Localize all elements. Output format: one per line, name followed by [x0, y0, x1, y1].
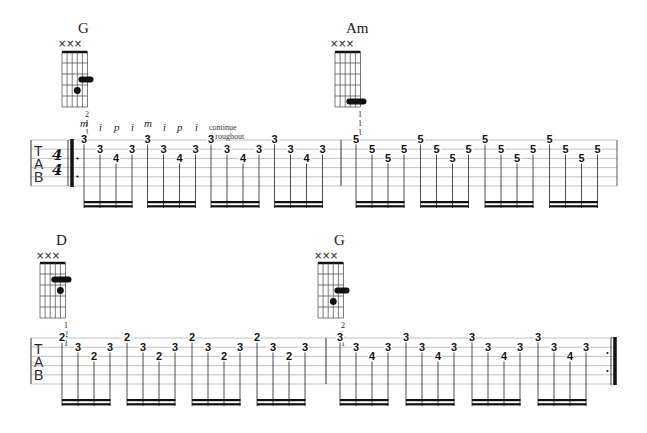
beam-secondary — [257, 403, 306, 405]
fret-number: 4 — [239, 153, 247, 164]
fret-number: 3 — [301, 342, 309, 353]
fret-number: 5 — [481, 134, 489, 145]
fret-number: 5 — [497, 144, 505, 155]
beam-secondary — [62, 403, 111, 405]
fret-number: 4 — [368, 351, 376, 362]
fret-number: 4 — [566, 351, 574, 362]
repeat-dot — [76, 175, 78, 177]
beam-primary — [84, 201, 133, 203]
beam-primary — [356, 201, 405, 203]
fret-number: 5 — [448, 153, 456, 164]
fret-number: 4 — [175, 153, 183, 164]
fret-number: 2 — [155, 351, 163, 362]
finger-dot — [57, 287, 64, 294]
fret-number: 3 — [207, 134, 215, 145]
fret-number: 3 — [402, 332, 410, 343]
fret-number: 4 — [500, 351, 508, 362]
fret-number: 5 — [400, 144, 408, 155]
fret-number: 3 — [191, 144, 199, 155]
beam-secondary — [550, 205, 599, 207]
beam-primary — [421, 201, 470, 203]
fret-number: 3 — [204, 342, 212, 353]
fret-number: 3 — [418, 342, 426, 353]
fret-number: 5 — [561, 144, 569, 155]
fret-number: 3 — [270, 134, 278, 145]
fret-number: 2 — [58, 332, 66, 343]
fret-number: 3 — [484, 342, 492, 353]
fret-number: 3 — [450, 342, 458, 353]
finger-dot — [330, 298, 337, 305]
beam-secondary — [472, 403, 521, 405]
beam-primary — [192, 399, 241, 401]
beam-secondary — [340, 403, 389, 405]
beam-secondary — [275, 205, 324, 207]
beam-secondary — [127, 403, 176, 405]
fret-number: 2 — [285, 351, 293, 362]
beam-primary — [257, 399, 306, 401]
beam-primary — [211, 201, 260, 203]
fret-number: 5 — [432, 144, 440, 155]
fret-number: 3 — [171, 342, 179, 353]
fret-number: 3 — [269, 342, 277, 353]
beam-primary — [127, 399, 176, 401]
fret-number: 5 — [352, 134, 360, 145]
fret-number: 5 — [384, 153, 392, 164]
fret-number: 3 — [286, 144, 294, 155]
beam-secondary — [192, 403, 241, 405]
beam-primary — [538, 399, 587, 401]
beam-primary — [485, 201, 534, 203]
fret-number: 3 — [96, 144, 104, 155]
fret-number: 5 — [513, 153, 521, 164]
beam-primary — [275, 201, 324, 203]
fret-number: 3 — [255, 144, 263, 155]
beam-secondary — [406, 403, 455, 405]
fret-number: 5 — [416, 134, 424, 145]
fret-number: 5 — [545, 134, 553, 145]
fret-number: 3 — [74, 342, 82, 353]
fret-number: 3 — [582, 342, 590, 353]
fret-number: 2 — [123, 332, 131, 343]
beam-secondary — [485, 205, 534, 207]
fret-number: 5 — [368, 144, 376, 155]
fret-number: 3 — [516, 342, 524, 353]
fret-number: 3 — [352, 342, 360, 353]
beam-primary — [406, 399, 455, 401]
beam-primary — [340, 399, 389, 401]
fret-number: 3 — [534, 332, 542, 343]
fret-number: 3 — [143, 134, 151, 145]
fret-number: 3 — [550, 342, 558, 353]
beam-secondary — [356, 205, 405, 207]
beam-secondary — [211, 205, 260, 207]
beam-secondary — [148, 205, 197, 207]
beam-secondary — [84, 205, 133, 207]
fret-number: 3 — [128, 144, 136, 155]
beam-secondary — [421, 205, 470, 207]
finger-dot — [74, 87, 81, 94]
fret-number: 2 — [220, 351, 228, 362]
repeat-dot — [76, 157, 78, 159]
notation-graphics — [0, 0, 647, 433]
fret-number: 3 — [80, 134, 88, 145]
fret-number: 2 — [253, 332, 261, 343]
fret-number: 3 — [336, 332, 344, 343]
fret-number: 2 — [90, 351, 98, 362]
repeat-dot — [606, 370, 608, 372]
fret-number: 3 — [106, 342, 114, 353]
fret-number: 4 — [434, 351, 442, 362]
fret-number: 5 — [593, 144, 601, 155]
repeat-dot — [606, 352, 608, 354]
fret-number: 4 — [112, 153, 120, 164]
beam-primary — [472, 399, 521, 401]
fret-number: 4 — [302, 153, 310, 164]
beam-primary — [148, 201, 197, 203]
fret-number: 3 — [159, 144, 167, 155]
fret-number: 5 — [529, 144, 537, 155]
fret-number: 3 — [468, 332, 476, 343]
fret-number: 3 — [318, 144, 326, 155]
fret-number: 3 — [139, 342, 147, 353]
fret-number: 3 — [384, 342, 392, 353]
beam-secondary — [538, 403, 587, 405]
fret-number: 5 — [577, 153, 585, 164]
beam-primary — [550, 201, 599, 203]
beam-primary — [62, 399, 111, 401]
